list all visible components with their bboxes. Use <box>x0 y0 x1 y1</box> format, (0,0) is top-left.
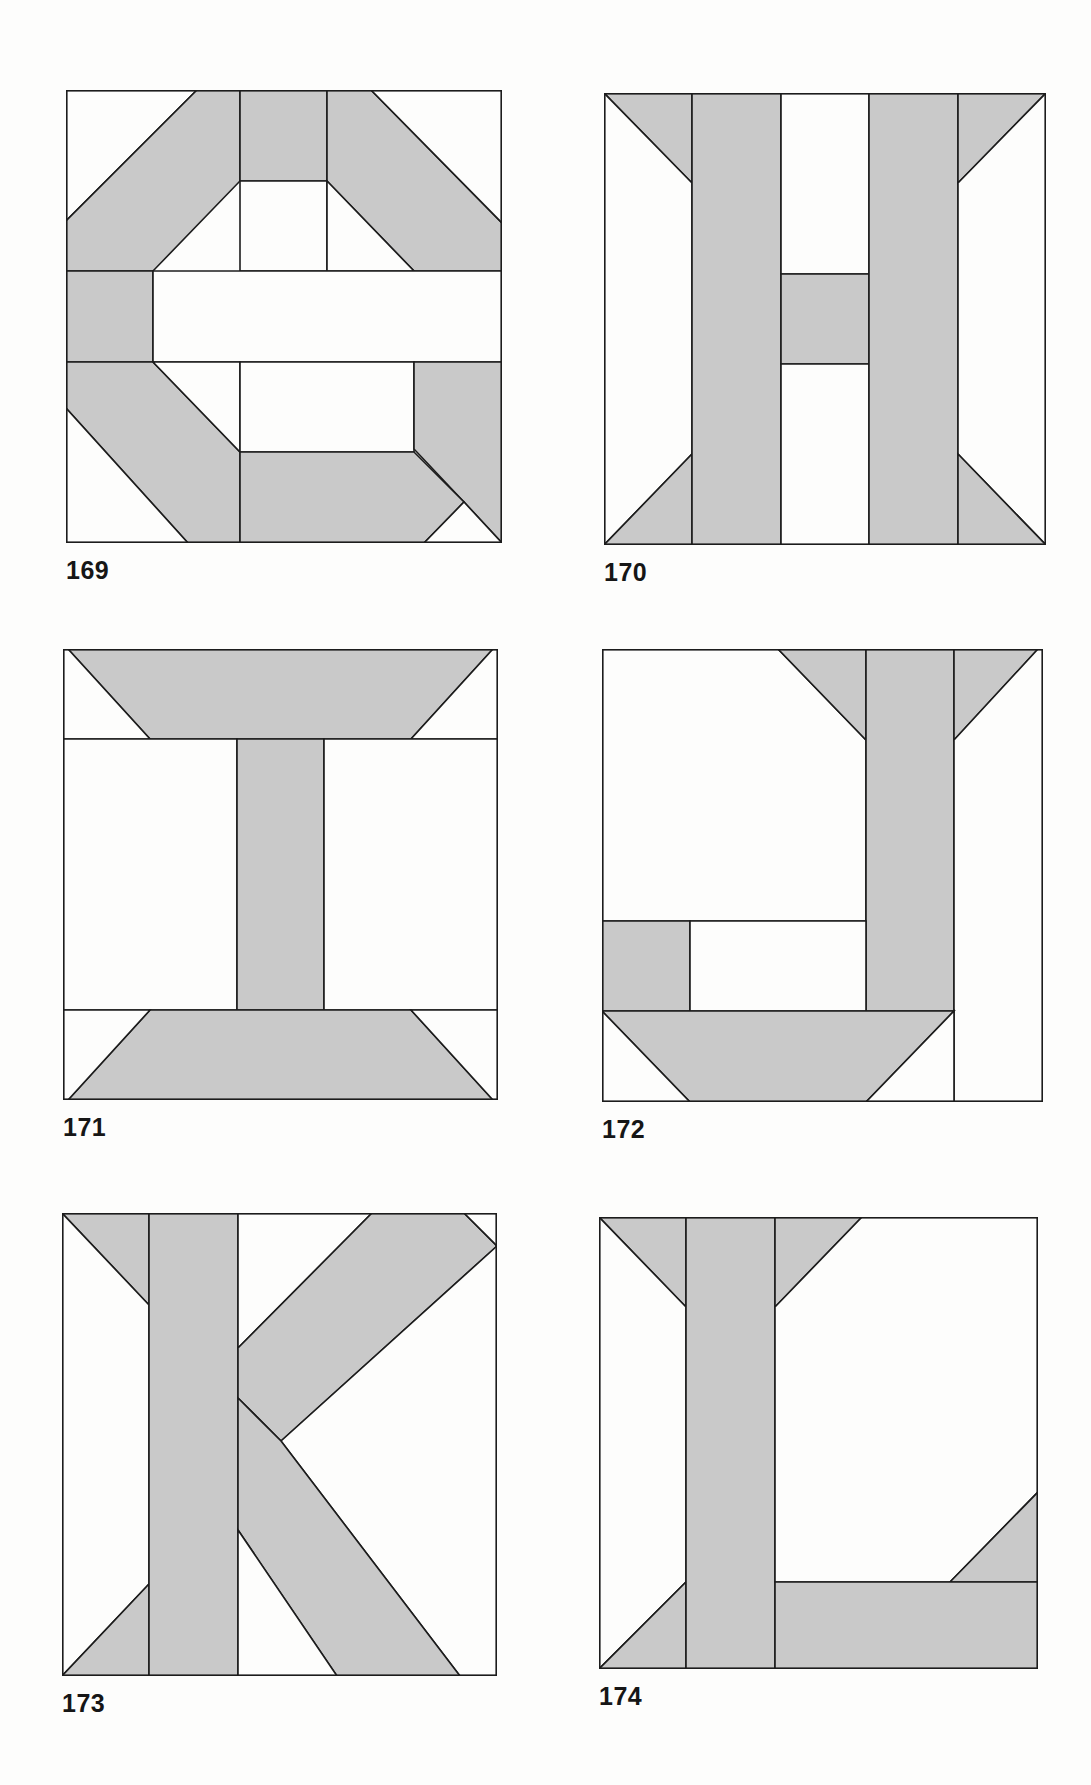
quilt-block-172-letter-j: 172 <box>602 649 1043 1102</box>
quilt-block-170-letter-h: 170 <box>604 93 1046 545</box>
block-label-169: 169 <box>66 558 109 583</box>
letter-g-diagram <box>66 90 502 543</box>
block-label-174: 174 <box>599 1684 642 1709</box>
letter-h-diagram <box>604 93 1046 545</box>
letter-k-diagram <box>62 1213 497 1676</box>
block-label-170: 170 <box>604 560 647 585</box>
quilt-block-171-letter-i: 171 <box>63 649 498 1100</box>
quilt-block-174-letter-l: 174 <box>599 1217 1038 1669</box>
letter-j-diagram <box>602 649 1043 1102</box>
letter-i-diagram <box>63 649 498 1100</box>
letter-l-diagram <box>599 1217 1038 1669</box>
quilt-block-173-letter-k: 173 <box>62 1213 497 1676</box>
block-label-173: 173 <box>62 1691 105 1716</box>
block-label-171: 171 <box>63 1115 106 1140</box>
block-label-172: 172 <box>602 1117 645 1142</box>
quilt-block-169-letter-g: 169 <box>66 90 502 543</box>
book-page: 169 170 171 172 173 174 <box>0 0 1091 1785</box>
